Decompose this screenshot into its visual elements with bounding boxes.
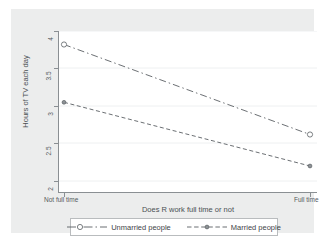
legend-entry-unmarried[interactable]: Unmarried people <box>67 222 171 232</box>
y-tick-label-2: 2 <box>11 177 53 185</box>
chart-screenshot: Hours of TV each day 4 3.5 3 2.5 2 <box>0 0 325 242</box>
legend-entry-married[interactable]: Married people <box>187 222 281 232</box>
legend-label-unmarried: Unmarried people <box>111 223 171 232</box>
y-tick-label-2p5: 2.5 <box>11 139 53 147</box>
y-axis-line <box>58 31 59 193</box>
x-tick-label-not-full-time: Not full time <box>44 196 78 203</box>
plot-svg <box>59 31 317 192</box>
x-tick-label-full-time: Full time <box>294 196 319 203</box>
plot-area <box>59 31 317 192</box>
chart-legend: Unmarried people Married people <box>70 218 278 236</box>
series-line-married <box>62 100 312 168</box>
y-tick-label-3p5: 3.5 <box>11 64 53 72</box>
legend-key-unmarried-icon <box>67 222 107 232</box>
x-axis-line <box>58 192 317 193</box>
gridlines <box>59 31 317 181</box>
series-line-unmarried <box>61 42 312 137</box>
x-axis-title: Does R work full time or not <box>59 205 317 214</box>
y-tick-label-4: 4 <box>11 27 53 35</box>
legend-key-married-icon <box>187 222 227 232</box>
graph-region: Hours of TV each day 4 3.5 3 2.5 2 <box>11 9 314 233</box>
legend-label-married: Married people <box>231 223 281 232</box>
y-tick-label-3: 3 <box>11 102 53 110</box>
